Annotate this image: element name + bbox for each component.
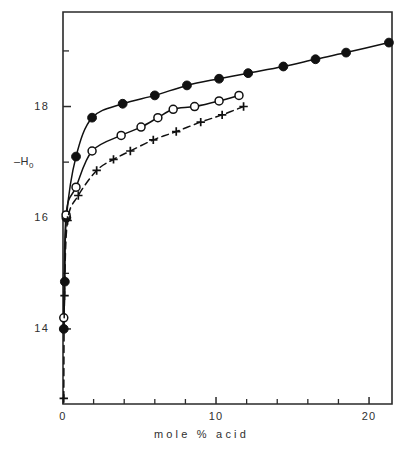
y-axis-title: –H0	[14, 155, 34, 170]
filled-circle-series	[59, 38, 393, 333]
data-series	[59, 38, 393, 402]
y-tick-label-18: 18	[0, 100, 49, 112]
axes-frame	[63, 12, 392, 404]
plot-area	[0, 0, 403, 453]
x-tick-label-20: 20	[344, 410, 394, 422]
y-axis-title-main: –H	[14, 155, 29, 167]
x-tick-label-10: 10	[191, 410, 241, 422]
x-axis-title: mole % acid	[0, 428, 403, 440]
y-axis-title-subscript: 0	[29, 161, 33, 170]
x-tick-label-0: 0	[38, 410, 88, 422]
chart-figure: 18 16 14 0 10 20 mole % acid –H0	[0, 0, 403, 453]
y-tick-label-16: 16	[0, 211, 49, 223]
plus-series	[60, 102, 248, 402]
y-tick-label-14: 14	[0, 322, 49, 334]
